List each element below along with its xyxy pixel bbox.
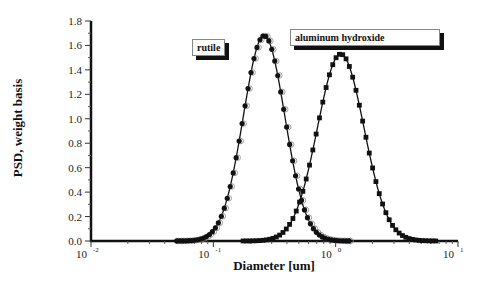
x-tick-label: 10 xyxy=(321,248,333,260)
filled-circle-marker xyxy=(278,89,283,94)
filled-circle-marker xyxy=(281,107,286,112)
square-marker xyxy=(347,64,352,69)
square-marker xyxy=(350,75,355,80)
legend-aluminum-hydroxide: aluminum hydroxide xyxy=(290,29,440,46)
filled-circle-marker xyxy=(219,214,224,219)
x-tick-label: 10 xyxy=(76,248,88,260)
filled-circle-marker xyxy=(225,196,230,201)
x-tick-exponent: 0 xyxy=(338,246,342,254)
filled-circle-marker xyxy=(305,215,310,220)
x-tick-exponent: -1 xyxy=(215,246,221,254)
filled-circle-marker xyxy=(269,47,274,52)
filled-circle-marker xyxy=(248,70,253,75)
filled-circle-marker xyxy=(254,45,259,50)
y-axis-label: PSD, weight basis xyxy=(10,79,26,178)
filled-circle-marker xyxy=(240,121,245,126)
y-tick-label: 1.2 xyxy=(68,88,82,100)
series-line-1 xyxy=(243,54,437,241)
y-tick-label: 1.4 xyxy=(68,64,82,76)
filled-circle-marker xyxy=(242,103,247,108)
square-marker xyxy=(307,163,312,168)
square-marker xyxy=(390,223,395,228)
y-tick-label: 1.6 xyxy=(68,39,82,51)
y-tick-label: 0.8 xyxy=(68,137,82,149)
filled-circle-marker xyxy=(234,155,239,160)
filled-circle-marker xyxy=(290,158,295,163)
y-tick-label: 1.8 xyxy=(68,15,82,27)
filled-circle-marker xyxy=(287,142,292,147)
square-marker xyxy=(344,56,349,61)
square-marker xyxy=(291,216,296,221)
filled-circle-marker xyxy=(284,125,289,130)
filled-circle-marker xyxy=(293,173,298,178)
square-marker xyxy=(364,135,369,140)
y-tick-label: 0.4 xyxy=(68,186,82,198)
square-marker xyxy=(377,191,382,196)
filled-circle-marker xyxy=(245,86,250,91)
y-tick-label: 0.6 xyxy=(68,162,82,174)
square-marker xyxy=(374,179,379,184)
filled-circle-marker xyxy=(308,221,313,226)
square-marker xyxy=(357,103,362,108)
x-tick-exponent: 1 xyxy=(460,246,464,254)
filled-circle-marker xyxy=(216,220,221,225)
filled-circle-marker xyxy=(231,170,236,175)
square-marker xyxy=(317,115,322,120)
y-tick-label: 0.0 xyxy=(68,235,82,247)
x-tick-label: 10 xyxy=(198,248,210,260)
square-marker xyxy=(330,62,335,67)
filled-circle-marker xyxy=(222,206,227,211)
square-marker xyxy=(314,132,319,137)
filled-circle-marker xyxy=(302,207,307,212)
square-marker xyxy=(327,72,332,77)
square-marker xyxy=(354,88,359,93)
x-tick-label: 10 xyxy=(443,248,455,260)
series-line-0 xyxy=(177,36,351,241)
filled-circle-marker xyxy=(237,138,242,143)
square-marker xyxy=(370,166,375,171)
filled-circle-marker xyxy=(266,38,271,43)
filled-circle-marker xyxy=(263,34,268,39)
square-marker xyxy=(383,210,388,215)
square-marker xyxy=(287,222,292,227)
square-marker xyxy=(340,52,345,57)
square-marker xyxy=(387,217,392,222)
square-marker xyxy=(367,151,372,156)
square-marker xyxy=(324,85,329,90)
square-marker xyxy=(320,100,325,105)
square-marker xyxy=(310,148,315,153)
filled-circle-marker xyxy=(228,184,233,189)
square-marker xyxy=(284,227,289,232)
square-marker xyxy=(300,189,305,194)
square-marker xyxy=(433,239,438,244)
filled-circle-marker xyxy=(275,73,280,78)
filled-circle-marker xyxy=(346,238,351,243)
x-tick-exponent: -2 xyxy=(93,246,99,254)
filled-circle-marker xyxy=(296,186,301,191)
y-tick-label: 1.0 xyxy=(68,113,82,125)
filled-circle-marker xyxy=(213,225,218,230)
square-marker xyxy=(380,202,385,207)
filled-circle-marker xyxy=(251,56,256,61)
x-axis-label: Diameter [um] xyxy=(233,258,315,274)
y-tick-label: 0.2 xyxy=(68,211,82,223)
square-marker xyxy=(360,119,365,124)
square-marker xyxy=(294,209,299,214)
legend-rutile: rutile xyxy=(192,39,225,56)
filled-circle-marker xyxy=(272,59,277,64)
square-marker xyxy=(297,200,302,205)
square-marker xyxy=(304,177,309,182)
